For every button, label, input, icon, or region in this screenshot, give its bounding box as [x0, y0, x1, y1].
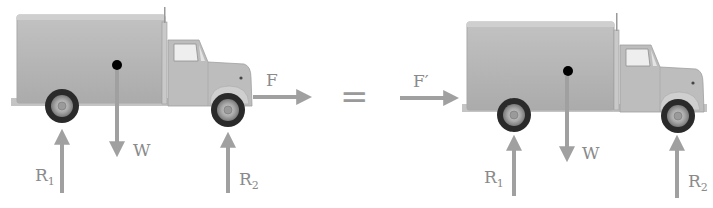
center-of-gravity-dot — [112, 60, 122, 70]
box-roof-highlight — [467, 22, 614, 27]
equals-sign: = — [340, 76, 369, 116]
force-f-prime-label: F′ — [413, 71, 429, 91]
cargo-box — [467, 22, 614, 110]
exhaust-stack — [162, 22, 167, 104]
center-of-gravity-dot — [563, 66, 573, 76]
left-truck: F W R1 R2 — [11, 7, 305, 193]
front-wheel — [211, 93, 245, 127]
weight-label: W — [582, 143, 600, 163]
rear-wheel — [497, 98, 531, 132]
weight-label: W — [133, 140, 151, 160]
exhaust-stack — [614, 30, 619, 110]
headlight — [239, 76, 242, 79]
r2-label: R2 — [239, 169, 259, 192]
cab-window — [626, 49, 650, 66]
transmissibility-diagram: F W R1 R2 = F′ W — [0, 0, 713, 208]
box-roof-highlight — [17, 15, 165, 20]
stack-tip — [616, 13, 618, 31]
stack-tip — [164, 7, 166, 23]
r2-label: R2 — [688, 171, 708, 194]
cab-window — [174, 44, 198, 61]
cargo-box — [17, 15, 165, 103]
right-truck: F′ W R1 R2 — [400, 13, 708, 198]
rear-wheel — [45, 89, 79, 123]
r1-label: R1 — [35, 165, 55, 188]
front-wheel — [661, 99, 695, 133]
force-f-label: F — [266, 70, 278, 90]
r1-label: R1 — [484, 167, 504, 190]
headlight — [691, 81, 694, 84]
